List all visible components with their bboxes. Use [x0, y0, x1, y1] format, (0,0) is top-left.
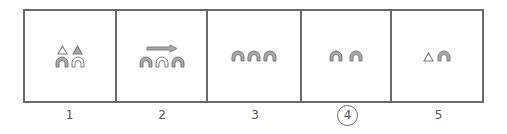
hollow-arch-icon [71, 56, 85, 68]
panel-number: 4 [344, 109, 352, 121]
filled-arch-icon [231, 50, 245, 62]
panel-label-3: 3 [208, 104, 302, 126]
hollow-triangle-icon [57, 45, 68, 55]
filled-arch-icon [55, 56, 69, 68]
panel-number: 3 [251, 109, 259, 121]
filled-arch-icon [329, 50, 343, 62]
panel-1 [25, 11, 117, 101]
filled-arch-icon [171, 56, 185, 68]
filled-arch-icon [139, 56, 153, 68]
filled-arch-icon [263, 50, 277, 62]
panel-label-1: 1 [23, 104, 116, 126]
panel-label-2: 2 [116, 104, 208, 126]
filled-arch-icon [349, 50, 363, 62]
panel-number: 1 [66, 109, 74, 121]
filled-triangle-icon [72, 45, 83, 55]
panel-label-5: 5 [393, 104, 484, 126]
panel-number: 2 [158, 109, 166, 121]
panel-strip [23, 9, 484, 103]
selected-answer-circle: 4 [337, 105, 358, 126]
panel-label-4: 4 [302, 104, 393, 126]
panel-number: 5 [435, 109, 443, 121]
filled-arch-icon [247, 50, 261, 62]
panel-2 [117, 11, 208, 101]
panel-5 [392, 11, 482, 101]
panel-3 [208, 11, 301, 101]
hollow-triangle-icon [423, 52, 434, 62]
panel-labels: 1 2 3 4 5 [23, 104, 484, 126]
panel-4 [302, 11, 392, 101]
right-arrow-icon [146, 44, 178, 53]
filled-arch-icon [437, 50, 451, 62]
hollow-arch-icon [155, 56, 169, 68]
